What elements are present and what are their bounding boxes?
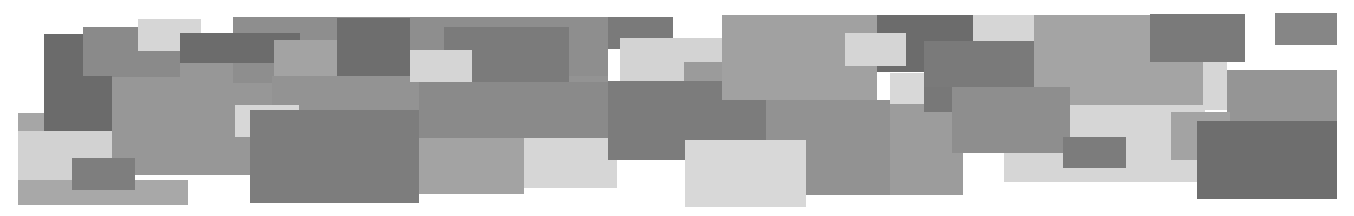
gray-rectangle (410, 50, 472, 82)
abstract-rectangles-canvas (0, 0, 1354, 216)
gray-rectangle (524, 138, 617, 188)
gray-rectangle (419, 138, 524, 194)
gray-rectangle (1203, 62, 1227, 110)
gray-rectangle (1150, 14, 1245, 62)
gray-rectangle (890, 73, 924, 104)
gray-rectangle (845, 33, 906, 66)
gray-rectangle (250, 110, 419, 203)
gray-rectangle (685, 140, 806, 207)
gray-rectangle (1227, 70, 1337, 122)
gray-rectangle (72, 158, 135, 190)
gray-rectangle (924, 41, 1034, 87)
gray-rectangle (722, 100, 766, 140)
gray-rectangle (952, 87, 1070, 153)
gray-rectangle (1197, 121, 1337, 199)
gray-rectangle (684, 62, 722, 82)
gray-rectangle (1275, 13, 1337, 45)
gray-rectangle (83, 76, 112, 131)
gray-rectangle (419, 82, 608, 138)
gray-rectangle (337, 18, 410, 76)
gray-rectangle (1063, 137, 1126, 168)
gray-rectangle (973, 15, 1034, 41)
